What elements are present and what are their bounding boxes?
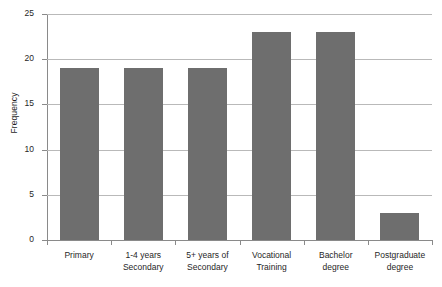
x-axis-tick [304, 240, 305, 245]
gridline [47, 14, 432, 15]
bar [124, 68, 163, 240]
bar [380, 213, 419, 240]
x-axis-tick [175, 240, 176, 245]
bar [60, 68, 99, 240]
y-tick-label: 10 [25, 144, 34, 155]
gridline [47, 195, 432, 196]
y-tick-label: 0 [29, 234, 34, 245]
y-tick-label: 25 [25, 8, 34, 19]
bar [316, 32, 355, 240]
x-axis-label-line1: 1-4 years [126, 250, 161, 260]
y-tick-label: 5 [29, 189, 34, 200]
y-tick-label: 15 [25, 98, 34, 109]
x-axis-tick [432, 240, 433, 245]
x-axis-tick [368, 240, 369, 245]
y-axis-title: Frequency [9, 68, 19, 158]
gridline [47, 59, 432, 60]
bar [252, 32, 291, 240]
x-axis-label-line1: Vocational [252, 250, 291, 260]
bar-chart: Frequency 0510152025 Primary1-4 yearsSec… [0, 0, 442, 287]
x-axis-label-line1: Primary [64, 250, 93, 260]
x-axis-label-line2: degree [358, 262, 442, 274]
x-axis-tick [111, 240, 112, 245]
x-axis-label: Postgraduatedegree [358, 250, 442, 273]
x-axis-tick [47, 240, 48, 245]
gridline [47, 150, 432, 151]
gridline [47, 104, 432, 105]
x-axis-tick [240, 240, 241, 245]
plot-area [47, 14, 432, 240]
x-axis-label-line1: 5+ years of [186, 250, 228, 260]
x-axis-label-line1: Postgraduate [375, 250, 426, 260]
bar [188, 68, 227, 240]
y-tick-label: 20 [25, 53, 34, 64]
x-axis-label-line1: Bachelor [319, 250, 353, 260]
